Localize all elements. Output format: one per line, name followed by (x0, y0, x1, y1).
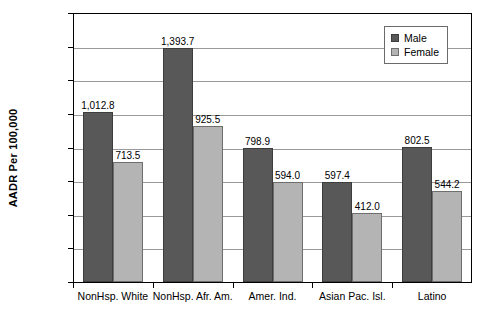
bar-chart: AADR Per 100,000 0.0200.0400.0600.0800.0… (0, 0, 493, 316)
bar-value-label: 597.4 (325, 170, 350, 181)
legend-item[interactable]: Male (391, 31, 439, 45)
bar-value-label: 713.5 (115, 150, 140, 161)
bar-male[interactable]: 1,393.7 (163, 48, 193, 282)
bar-male[interactable]: 1,012.8 (83, 112, 113, 282)
bar-value-label: 802.5 (405, 135, 430, 146)
x-axis-category-label: NonHsp. Afr. Am. (153, 290, 233, 302)
bar-group: 597.4412.0 (322, 13, 382, 282)
bar-value-label: 925.5 (195, 114, 220, 125)
y-axis-title: AADR Per 100,000 (0, 0, 26, 316)
bar-value-label: 412.0 (355, 201, 380, 212)
legend-label: Male (404, 32, 427, 44)
bar-male[interactable]: 798.9 (243, 148, 273, 282)
legend-swatch-female (391, 48, 399, 56)
bar-female[interactable]: 713.5 (113, 162, 143, 282)
x-axis-tick-mark (73, 283, 74, 288)
bar-female[interactable]: 544.2 (432, 191, 462, 282)
bar-male[interactable]: 597.4 (322, 182, 352, 282)
bar-value-label: 594.0 (275, 170, 300, 181)
bar-group: 1,393.7925.5 (163, 13, 223, 282)
bar-female[interactable]: 412.0 (352, 213, 382, 282)
bar-value-label: 1,012.8 (81, 100, 114, 111)
x-axis-tick-mark (312, 283, 313, 288)
bar-value-label: 1,393.7 (161, 36, 194, 47)
chart-legend: MaleFemale (384, 26, 448, 64)
bar-group: 1,012.8713.5 (83, 13, 143, 282)
legend-label: Female (404, 46, 439, 58)
x-axis-category-label: Latino (418, 290, 447, 302)
bar-value-label: 798.9 (245, 136, 270, 147)
x-axis-category-label: NonHsp. White (78, 290, 149, 302)
bar-female[interactable]: 925.5 (193, 126, 223, 282)
x-axis-category-label: Asian Pac. Isl. (319, 290, 386, 302)
bar-male[interactable]: 802.5 (402, 147, 432, 282)
x-axis-tick-mark (153, 283, 154, 288)
bar-value-label: 544.2 (435, 179, 460, 190)
x-axis-category-label: Amer. Ind. (249, 290, 297, 302)
bar-female[interactable]: 594.0 (273, 182, 303, 282)
legend-item[interactable]: Female (391, 45, 439, 59)
x-axis-tick-mark (392, 283, 393, 288)
bar-group: 798.9594.0 (243, 13, 303, 282)
legend-swatch-male (391, 34, 399, 42)
x-axis-tick-mark (233, 283, 234, 288)
